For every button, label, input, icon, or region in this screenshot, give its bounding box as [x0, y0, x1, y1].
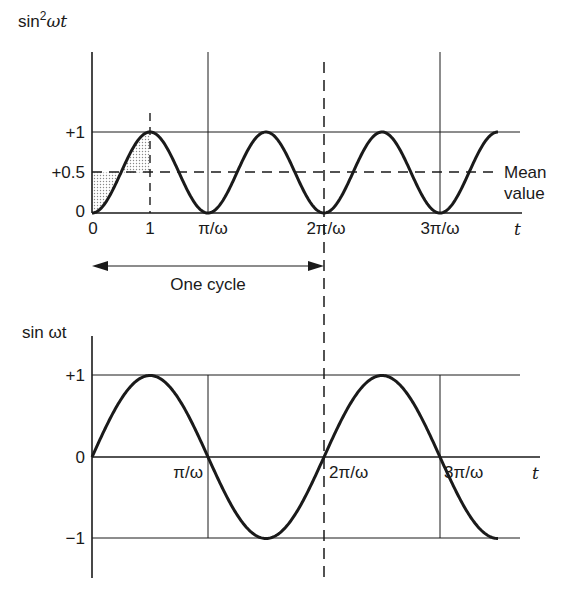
one-cycle-label: One cycle — [170, 275, 246, 294]
top-x-tick-3pi: 3π/ω — [420, 219, 459, 238]
bottom-y-tick-zero: 0 — [76, 448, 85, 467]
top-x-tick-pi: π/ω — [198, 219, 228, 238]
bottom-x-tick-2pi: 2π/ω — [329, 463, 368, 482]
top-x-tick-zero: 0 — [88, 219, 97, 238]
one-cycle-annotation: One cycle — [92, 261, 324, 294]
bottom-plot: sin ωt +1 0 −1 π/ω 2π/ω 3π/ω t — [22, 323, 540, 578]
top-x-axis-label: t — [514, 219, 521, 239]
mean-value-label-line2: value — [504, 184, 545, 203]
top-y-tick-zero: 0 — [76, 202, 85, 221]
bottom-y-tick-plus-one: +1 — [66, 366, 85, 385]
mean-value-label-line1: Mean — [504, 163, 547, 182]
top-plot: sin2ωt +1 +0.5 0 0 1 π/ω 2π/ω 3π/ω t Mea… — [18, 9, 547, 239]
arrow-left-icon — [92, 261, 108, 271]
arrow-right-icon — [308, 261, 324, 271]
bottom-y-tick-minus-one: −1 — [66, 529, 85, 548]
top-x-tick-one: 1 — [145, 219, 154, 238]
top-x-tick-2pi: 2π/ω — [306, 219, 345, 238]
top-y-axis-label: sin2ωt — [18, 9, 67, 31]
bottom-x-tick-pi: π/ω — [173, 463, 203, 482]
bottom-y-axis-label: sin ωt — [22, 323, 67, 342]
top-y-tick-plus-one: +1 — [66, 123, 85, 142]
top-y-tick-half: +0.5 — [51, 163, 85, 182]
bottom-x-tick-3pi: 3π/ω — [444, 463, 483, 482]
sine-diagram: sin2ωt +1 +0.5 0 0 1 π/ω 2π/ω 3π/ω t Mea… — [0, 0, 570, 602]
bottom-x-axis-label: t — [532, 463, 539, 483]
